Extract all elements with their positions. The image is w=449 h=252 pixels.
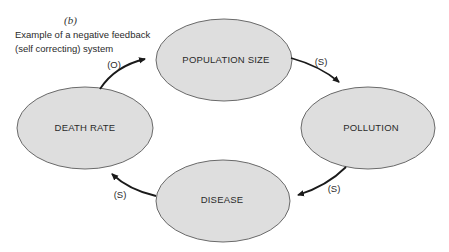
feedback-loop-diagram: POPULATION SIZE POLLUTION DISEASE DEATH … [0,0,449,252]
edge-label-s: (S) [328,183,341,194]
node-pollution: POLLUTION [301,87,435,169]
edge-disease-to-death-rate: (S) [112,174,156,200]
node-death-rate: DEATH RATE [17,87,153,169]
node-population-size: POPULATION SIZE [156,19,292,101]
edge-pollution-to-disease: (S) [298,167,346,195]
edge-label-s: (S) [315,56,328,67]
edge-label-s: (S) [114,189,127,200]
disease-label: DISEASE [201,194,244,205]
edge-death-rate-to-population: (O) [100,59,145,89]
population-size-label: POPULATION SIZE [182,54,269,65]
pollution-label: POLLUTION [343,122,399,133]
death-rate-label: DEATH RATE [55,122,116,133]
edge-label-o: (O) [107,59,121,70]
node-disease: DISEASE [156,160,290,242]
edge-population-to-pollution: (S) [291,56,339,82]
